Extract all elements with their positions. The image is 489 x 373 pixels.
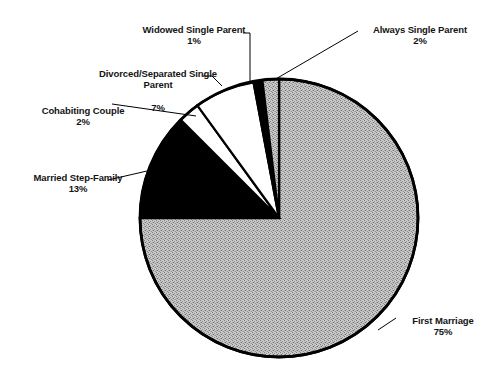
slice-label-name-line2: Parent (78, 79, 238, 91)
slice-label-always-single-parent: Always Single Parent 2% (355, 12, 485, 58)
slice-label-name: First Marriage (412, 315, 473, 326)
leader-line-always-single-parent (274, 31, 358, 80)
slice-label-widowed-single-parent: Widowed Single Parent 1% (118, 12, 270, 58)
slice-label-percent: 13% (2, 183, 154, 195)
slice-label-name: Married Step-Family (34, 172, 123, 183)
slice-label-percent: 2% (8, 116, 158, 128)
slice-label-married-step-family: Married Step-Family 13% (2, 160, 154, 206)
slice-label-name: Always Single Parent (373, 24, 467, 35)
slice-label-percent: 1% (118, 35, 270, 47)
slice-label-name: Cohabiting Couple (42, 105, 125, 116)
slice-label-cohabiting-couple: Cohabiting Couple 2% (8, 93, 158, 139)
slice-label-name: Widowed Single Parent (143, 24, 246, 35)
slice-label-first-marriage: First Marriage 75% (398, 303, 488, 349)
slice-label-name-line1: Divorced/Separated Single (99, 68, 217, 79)
pie-chart-figure: Widowed Single Parent 1% Divorced/Separa… (0, 0, 489, 373)
slice-label-percent: 75% (398, 326, 488, 338)
leader-line-first-marriage (378, 318, 396, 330)
slice-label-percent: 2% (355, 35, 485, 47)
